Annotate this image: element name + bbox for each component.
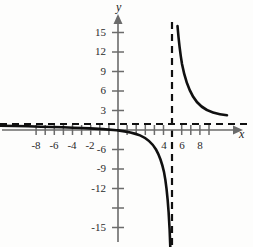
x-tick-label-4: 4 [156,139,172,151]
x-tick-label-6: 6 [174,139,190,151]
y-axis-arrowhead [114,14,123,24]
y-tick-label-3: 3 [80,104,106,116]
x-tick-label-neg2: -2 [82,139,98,151]
y-tick-label-neg15: -15 [80,221,106,233]
y-tick-label-6: 6 [80,84,106,96]
y-tick-label-neg9: -9 [80,162,106,174]
plot-canvas [0,0,253,247]
x-tick-label-neg6: -6 [46,139,62,151]
x-axis-label: x [239,127,244,142]
x-tick-label-8: 8 [192,139,208,151]
y-tick-label-15: 15 [80,26,106,38]
y-axis-label: y [116,0,121,15]
curve-right-branch [178,26,228,115]
rational-function-graph: y x 15 12 9 6 3 -6 -9 -12 -15 -8 -6 -4 -… [0,0,253,247]
y-tick-label-12: 12 [80,45,106,57]
x-tick-label-neg8: -8 [28,139,44,151]
y-tick-label-neg12: -12 [80,182,106,194]
y-tick-label-9: 9 [80,65,106,77]
x-tick-label-neg4: -4 [64,139,80,151]
